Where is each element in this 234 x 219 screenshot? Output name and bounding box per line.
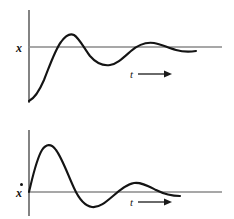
velocity-x-axis-arrow-icon [138,199,172,206]
displacement-x-axis-arrow-icon [138,71,172,78]
velocity-panel: x t [15,130,222,216]
velocity-x-axis-label: t [130,196,134,208]
velocity-curve [29,145,180,207]
displacement-panel: x t [15,10,222,103]
plot-canvas: x t x t [0,0,234,219]
velocity-label-overdot-icon [20,183,23,186]
displacement-y-axis-label: x [15,41,22,55]
velocity-y-axis-label: x [15,186,22,200]
damped-oscillation-figure: x t x t [0,0,234,219]
displacement-x-axis-label: t [130,68,134,80]
displacement-curve [29,34,196,101]
